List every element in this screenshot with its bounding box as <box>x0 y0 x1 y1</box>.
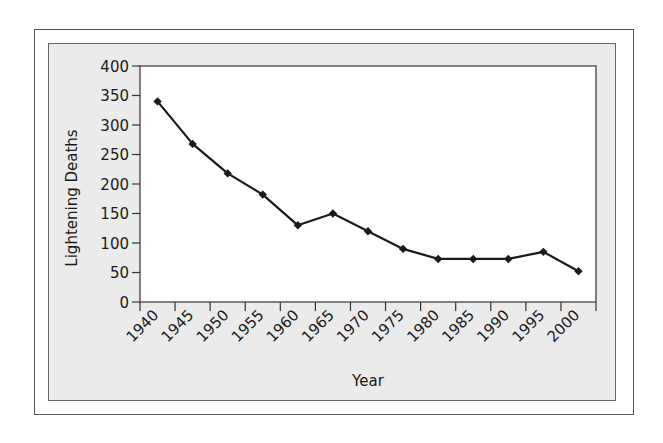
x-tick-label: 1945 <box>158 306 198 346</box>
y-tick-label: 350 <box>100 87 129 105</box>
y-tick-label: 250 <box>100 146 129 164</box>
x-tick-label: 1975 <box>368 306 408 346</box>
x-tick-label: 1995 <box>508 306 548 346</box>
y-tick-label: 200 <box>100 176 129 194</box>
x-tick-label: 1950 <box>193 306 233 346</box>
x-tick-label: 1965 <box>298 306 338 346</box>
y-tick-label: 400 <box>100 58 129 76</box>
plot-area <box>140 66 596 302</box>
x-tick-label: 2000 <box>544 306 584 346</box>
y-tick-label: 300 <box>100 117 129 135</box>
y-tick-label: 0 <box>119 294 129 312</box>
x-tick-label: 1970 <box>333 306 373 346</box>
y-tick-label: 150 <box>100 205 129 223</box>
x-tick-label: 1985 <box>438 306 478 346</box>
x-axis: 1940194519501955196019651970197519801985… <box>123 302 596 346</box>
x-tick-label: 1990 <box>473 306 513 346</box>
x-tick-label: 1940 <box>123 306 163 346</box>
x-tick-label: 1980 <box>403 306 443 346</box>
x-axis-title: Year <box>351 372 385 390</box>
x-tick-label: 1960 <box>263 306 303 346</box>
x-tick-label: 1955 <box>228 306 268 346</box>
y-tick-label: 50 <box>110 264 129 282</box>
y-axis: 050100150200250300350400 <box>100 58 140 312</box>
line-chart: 050100150200250300350400 194019451950195… <box>0 0 663 443</box>
y-axis-title: Lightening Deaths <box>63 129 81 266</box>
y-tick-label: 100 <box>100 235 129 253</box>
